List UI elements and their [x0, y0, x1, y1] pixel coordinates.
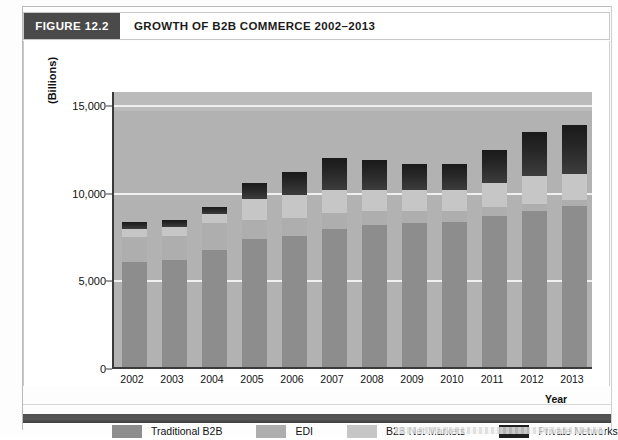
bar-segment-traditional-b2b-2002: [122, 262, 147, 367]
bar-segment-private-networks-2012: [522, 132, 547, 176]
bar-2005[interactable]: [242, 183, 267, 367]
bar-segment-traditional-b2b-2008: [362, 225, 387, 367]
bar-segment-edi-2010: [442, 211, 467, 222]
bar-segment-traditional-b2b-2011: [482, 216, 507, 367]
x-axis-tick-labels: 2002200320042005200620072008200920102011…: [112, 373, 592, 389]
gridline-15000: [114, 105, 592, 107]
x-tick-label-2013: 2013: [552, 373, 592, 385]
bar-segment-edi-2009: [402, 211, 427, 223]
bar-segment-private-networks-2008: [362, 160, 387, 190]
bar-segment-b2b-net-markets-2011: [482, 183, 507, 208]
bar-segment-traditional-b2b-2005: [242, 239, 267, 367]
legend-label: EDI: [295, 425, 313, 437]
page-border-right: [611, 6, 612, 430]
chart-card: (Billions) 05,00010,00015,000 2002200320…: [23, 41, 610, 386]
legend-item-traditional-b2b[interactable]: Traditional B2B: [112, 425, 222, 438]
x-tick-label-2010: 2010: [432, 373, 472, 385]
figure-number-badge: FIGURE 12.2: [24, 13, 120, 39]
bar-segment-traditional-b2b-2013: [562, 206, 587, 367]
bar-segment-b2b-net-markets-2003: [162, 227, 187, 236]
bar-2012[interactable]: [522, 132, 547, 367]
plot-area: [112, 92, 592, 369]
figure-header: FIGURE 12.2 GROWTH OF B2B COMMERCE 2002–…: [23, 12, 610, 40]
footer-hairline: [23, 404, 611, 405]
page-border-top: [22, 6, 612, 7]
bar-2007[interactable]: [322, 158, 347, 367]
bar-segment-edi-2007: [322, 213, 347, 229]
x-tick-label-2006: 2006: [272, 373, 312, 385]
y-tick-label-10000: 10,000: [72, 188, 106, 200]
bar-segment-private-networks-2009: [402, 164, 427, 190]
bar-segment-edi-2011: [482, 207, 507, 216]
bar-2008[interactable]: [362, 160, 387, 367]
bar-segment-traditional-b2b-2012: [522, 211, 547, 367]
bar-2002[interactable]: [122, 222, 147, 367]
legend-swatch-icon: [112, 425, 142, 438]
bar-segment-edi-2005: [242, 220, 267, 239]
bar-segment-b2b-net-markets-2012: [522, 176, 547, 204]
bar-segment-b2b-net-markets-2013: [562, 174, 587, 200]
bar-2013[interactable]: [562, 125, 587, 367]
bar-segment-private-networks-2007: [322, 158, 347, 190]
y-axis-tick-labels: 05,00010,00015,000: [38, 92, 106, 369]
x-tick-label-2004: 2004: [192, 373, 232, 385]
bar-segment-traditional-b2b-2010: [442, 222, 467, 368]
bar-segment-traditional-b2b-2004: [202, 250, 227, 367]
bar-segment-private-networks-2013: [562, 125, 587, 174]
bar-2011[interactable]: [482, 150, 507, 367]
bar-segment-edi-2002: [122, 237, 147, 262]
y-tick-label-15000: 15,000: [72, 100, 106, 112]
legend-label: Traditional B2B: [151, 425, 222, 437]
bar-segment-edi-2004: [202, 223, 227, 249]
bar-segment-private-networks-2011: [482, 150, 507, 183]
y-tick-label-5000: 5,000: [78, 275, 106, 287]
x-tick-label-2012: 2012: [512, 373, 552, 385]
bar-2004[interactable]: [202, 207, 227, 367]
x-tick-label-2002: 2002: [112, 373, 152, 385]
legend-swatch-icon: [347, 425, 377, 438]
bar-segment-edi-2008: [362, 211, 387, 225]
x-tick-label-2005: 2005: [232, 373, 272, 385]
x-tick-label-2011: 2011: [472, 373, 512, 385]
bar-segment-b2b-net-markets-2006: [282, 195, 307, 218]
bar-2009[interactable]: [402, 164, 427, 367]
bar-segment-edi-2003: [162, 236, 187, 261]
bar-segment-private-networks-2005: [242, 183, 267, 199]
bar-segment-private-networks-2003: [162, 220, 187, 227]
gridline-10000: [114, 193, 592, 195]
footer-caption-smudge: [395, 427, 605, 434]
bar-segment-b2b-net-markets-2002: [122, 229, 147, 238]
plot-top-band: [114, 92, 592, 111]
bar-segment-traditional-b2b-2007: [322, 229, 347, 368]
bar-segment-traditional-b2b-2003: [162, 260, 187, 367]
bar-segment-edi-2006: [282, 218, 307, 236]
bar-segment-b2b-net-markets-2009: [402, 190, 427, 211]
bar-2003[interactable]: [162, 220, 187, 367]
bar-segment-private-networks-2002: [122, 222, 147, 229]
bar-segment-b2b-net-markets-2010: [442, 190, 467, 211]
legend-item-edi[interactable]: EDI: [256, 425, 313, 438]
bar-segment-b2b-net-markets-2004: [202, 214, 227, 223]
bar-2006[interactable]: [282, 172, 307, 367]
x-tick-label-2009: 2009: [392, 373, 432, 385]
footer-rule: [23, 414, 611, 423]
x-tick-label-2007: 2007: [312, 373, 352, 385]
bar-segment-private-networks-2010: [442, 164, 467, 190]
bar-segment-b2b-net-markets-2008: [362, 190, 387, 211]
x-tick-label-2008: 2008: [352, 373, 392, 385]
x-tick-label-2003: 2003: [152, 373, 192, 385]
bar-segment-traditional-b2b-2006: [282, 236, 307, 367]
bar-segment-b2b-net-markets-2005: [242, 199, 267, 220]
bar-segment-b2b-net-markets-2007: [322, 190, 347, 213]
bar-segment-private-networks-2006: [282, 172, 307, 195]
legend-swatch-icon: [256, 425, 286, 438]
bar-segment-traditional-b2b-2009: [402, 223, 427, 367]
bar-segment-private-networks-2004: [202, 207, 227, 214]
bar-2010[interactable]: [442, 164, 467, 367]
figure-title: GROWTH OF B2B COMMERCE 2002–2013: [120, 13, 609, 39]
bar-segment-edi-2012: [522, 204, 547, 211]
